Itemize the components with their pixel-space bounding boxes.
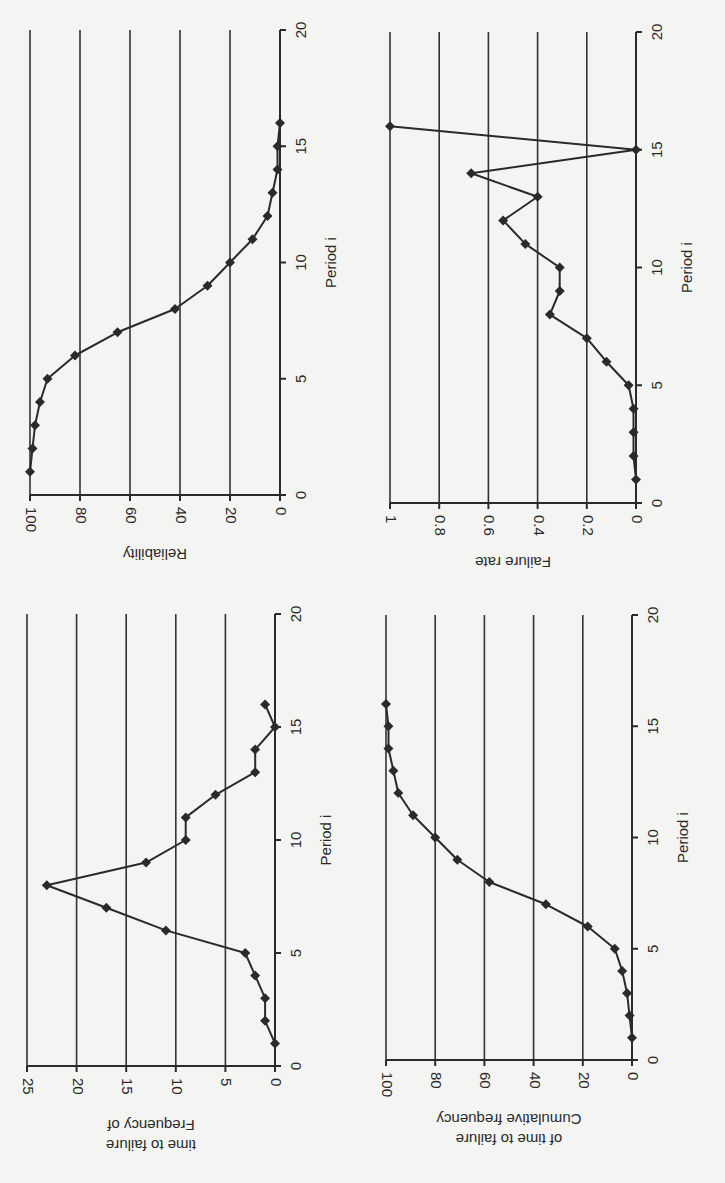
data-point-marker (555, 286, 565, 296)
data-point-marker (260, 699, 270, 709)
period-tick-label: 10 (287, 832, 304, 849)
period-tick-label: 0 (292, 491, 309, 499)
period-tick-label: 5 (644, 945, 661, 953)
data-point-marker (181, 835, 191, 845)
series-line (47, 704, 275, 1043)
value-tick-label: 80 (428, 1072, 445, 1089)
period-tick-label: 20 (287, 606, 304, 623)
data-point-marker (617, 966, 627, 976)
value-tick-label: 1 (383, 515, 400, 523)
data-point-marker (263, 211, 273, 221)
data-point-marker (622, 988, 632, 998)
data-point-marker (240, 948, 250, 958)
period-axis-title: Period i (322, 237, 339, 288)
value-tick-label: 60 (477, 1072, 494, 1089)
value-axis-title: Reliability (122, 546, 187, 563)
data-point-marker (631, 145, 641, 155)
value-tick-label: 40 (527, 1072, 544, 1089)
value-axis-title: of time to failure (456, 1131, 563, 1148)
value-tick-label: 0 (625, 1072, 642, 1080)
data-point-marker (383, 744, 393, 754)
data-point-marker (629, 404, 639, 414)
value-axis-title: Failure rate (475, 554, 551, 571)
period-tick-label: 15 (644, 718, 661, 735)
value-tick-label: 100 (23, 507, 40, 532)
data-point-marker (381, 699, 391, 709)
period-tick-label: 5 (648, 381, 665, 389)
data-point-marker (466, 168, 476, 178)
value-tick-label: 15 (119, 1078, 136, 1095)
value-tick-label: 20 (70, 1078, 87, 1095)
value-tick-label: 80 (73, 507, 90, 524)
cumulative-frequency-chart: 02040608010005101520Period iCumulative f… (379, 607, 691, 1148)
data-point-marker (629, 451, 639, 461)
data-point-marker (42, 880, 52, 890)
series-line (30, 123, 280, 472)
value-tick-label: 0 (268, 1078, 285, 1086)
period-axis-title: Period i (317, 815, 334, 866)
value-axis-title: Frequency of (106, 1117, 194, 1134)
value-axis-title: time to failure (106, 1137, 196, 1154)
period-tick-label: 10 (644, 829, 661, 846)
data-point-marker (545, 310, 555, 320)
value-tick-label: 20 (576, 1072, 593, 1089)
period-tick-label: 15 (292, 138, 309, 155)
period-tick-label: 20 (648, 24, 665, 41)
data-point-marker (113, 327, 123, 337)
data-point-marker (28, 444, 38, 454)
period-tick-label: 20 (644, 607, 661, 624)
value-tick-label: 0 (629, 515, 646, 523)
period-tick-label: 0 (287, 1062, 304, 1070)
value-tick-label: 0.2 (580, 515, 597, 536)
value-tick-label: 0.4 (531, 515, 548, 536)
period-axis-title: Period i (678, 242, 695, 293)
chart-page: 02040608010005101520Period iReliability … (0, 0, 725, 1183)
value-axis-title: Cumulative frequency (436, 1111, 582, 1128)
series-line (386, 704, 632, 1038)
data-point-marker (35, 397, 45, 407)
period-tick-label: 10 (648, 259, 665, 276)
data-point-marker (625, 1011, 635, 1021)
value-tick-label: 60 (123, 507, 140, 524)
value-tick-label: 40 (173, 507, 190, 524)
data-point-marker (631, 474, 641, 484)
data-point-marker (629, 427, 639, 437)
frequency-chart: 051015202505101520Period iFrequency ofti… (20, 606, 334, 1154)
data-point-marker (270, 1038, 280, 1048)
data-point-marker (383, 721, 393, 731)
period-tick-label: 5 (292, 375, 309, 383)
value-tick-label: 0 (273, 507, 290, 515)
period-tick-label: 15 (648, 141, 665, 158)
period-tick-label: 20 (292, 22, 309, 39)
data-point-marker (627, 1033, 637, 1043)
data-point-marker (30, 420, 40, 430)
data-point-marker (260, 993, 270, 1003)
value-tick-label: 10 (169, 1078, 186, 1095)
value-tick-label: 0.6 (481, 515, 498, 536)
value-tick-label: 20 (223, 507, 240, 524)
data-point-marker (268, 188, 278, 198)
period-axis-title: Period i (674, 812, 691, 863)
value-tick-label: 5 (218, 1078, 235, 1086)
period-tick-label: 10 (292, 254, 309, 271)
value-tick-label: 100 (379, 1072, 396, 1097)
data-point-marker (141, 858, 151, 868)
data-point-marker (385, 121, 395, 131)
data-point-marker (541, 899, 551, 909)
data-point-marker (250, 767, 260, 777)
value-tick-label: 0.8 (432, 515, 449, 536)
data-point-marker (388, 766, 398, 776)
data-point-marker (275, 118, 285, 128)
reliability-chart: 02040608010005101520Period iReliability (23, 22, 339, 563)
period-tick-label: 0 (644, 1056, 661, 1064)
period-tick-label: 15 (287, 719, 304, 736)
failure-rate-chart: 00.20.40.60.8105101520Period iFailure ra… (383, 24, 695, 571)
data-point-marker (161, 925, 171, 935)
period-tick-label: 5 (287, 949, 304, 957)
data-point-marker (250, 971, 260, 981)
period-tick-label: 0 (648, 499, 665, 507)
data-point-marker (25, 467, 35, 477)
value-tick-label: 25 (20, 1078, 37, 1095)
data-point-marker (101, 903, 111, 913)
data-point-marker (260, 1016, 270, 1026)
